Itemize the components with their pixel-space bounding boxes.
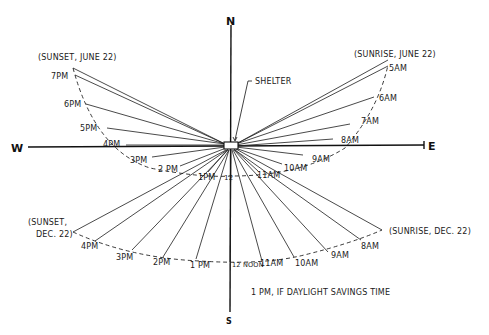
december-sunset-label-line2: DEC. 22) xyxy=(36,230,73,239)
december-hour-10am: 10AM xyxy=(295,259,318,268)
december-sunrise-label: (SUNRISE, DEC. 22) xyxy=(389,227,471,236)
june-hour-7pm: 7PM xyxy=(51,72,68,81)
june-sunrise-label: (SUNRISE, JUNE 22) xyxy=(354,50,436,59)
shelter-label: SHELTER xyxy=(255,77,292,86)
june-hour-6pm: 6PM xyxy=(64,100,81,109)
june-sunset-label: (SUNSET, JUNE 22) xyxy=(38,53,117,62)
june-hour-10am: 10AM xyxy=(284,164,307,173)
daylight-savings-note: 1 PM, IF DAYLIGHT SAVINGS TIME xyxy=(251,288,390,297)
june-hour-1pm: 1PM xyxy=(198,173,215,182)
june-hour-7am: 7AM xyxy=(361,117,379,126)
december-hour-2pm: 2PM xyxy=(153,258,170,267)
december-hour-9am: 9AM xyxy=(331,251,349,260)
sun-path-diagram: N S W E SHELTER (SUNSET, JUNE 22) (SUNRI… xyxy=(0,0,489,335)
june-hour-11am: 11AM xyxy=(257,171,280,180)
north-label: N xyxy=(226,15,235,28)
june-hour-4pm: 4PM xyxy=(103,140,120,149)
december-hour-4pm: 4PM xyxy=(81,242,98,251)
december-hour-3pm: 3PM xyxy=(116,253,133,262)
south-label: S xyxy=(226,317,232,326)
shelter-leader-line xyxy=(235,81,252,140)
december-hour-8am: 8AM xyxy=(361,242,379,251)
june-hour-2pm: 2 PM xyxy=(158,165,178,174)
june-hour-8am: 8AM xyxy=(341,136,359,145)
east-label: E xyxy=(428,140,436,153)
june-hour-9am: 9AM xyxy=(312,155,330,164)
west-label: W xyxy=(11,142,23,155)
december-sunset-label-line1: (SUNSET, xyxy=(28,218,67,227)
june-hour-5pm: 5PM xyxy=(80,124,97,133)
december-rays xyxy=(73,149,382,262)
june-hour-3pm: 3PM xyxy=(130,156,147,165)
june-hour-12: 12 xyxy=(224,174,233,182)
june-hour-5am: 5AM xyxy=(389,64,407,73)
shelter-box xyxy=(224,142,238,149)
june-hour-6am: 6AM xyxy=(379,94,397,103)
december-hour-12-noon: 12 NOON xyxy=(232,261,264,269)
december-hour-1pm: 1 PM xyxy=(190,261,210,270)
